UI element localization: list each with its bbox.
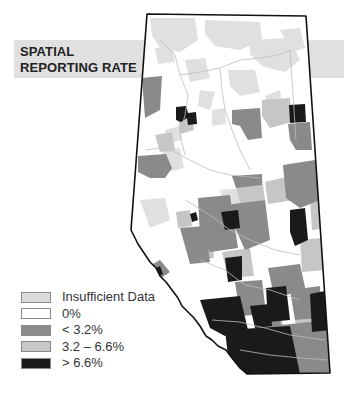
legend-swatch <box>21 341 51 352</box>
legend-swatch <box>21 308 51 319</box>
legend-swatch <box>21 358 51 369</box>
legend-label: < 3.2% <box>62 323 103 337</box>
title-line-1: SPATIAL <box>20 44 137 60</box>
legend-item-zero: 0% <box>21 306 155 323</box>
title-line-2: REPORTING RATE <box>20 60 137 76</box>
legend: Insufficient Data 0% < 3.2% 3.2 – 6.6% >… <box>21 289 155 372</box>
legend-label: 3.2 – 6.6% <box>62 340 124 354</box>
legend-label: Insufficient Data <box>62 290 155 304</box>
legend-swatch <box>21 325 51 336</box>
map-title: SPATIAL REPORTING RATE <box>20 44 137 76</box>
legend-item-insufficient-data: Insufficient Data <box>21 289 155 306</box>
legend-item-over-6-6: > 6.6% <box>21 355 155 372</box>
legend-item-3-2-to-6-6: 3.2 – 6.6% <box>21 339 155 356</box>
legend-label: 0% <box>62 307 81 321</box>
legend-swatch <box>21 292 51 303</box>
legend-item-under-3-2: < 3.2% <box>21 322 155 339</box>
legend-label: > 6.6% <box>62 356 103 370</box>
